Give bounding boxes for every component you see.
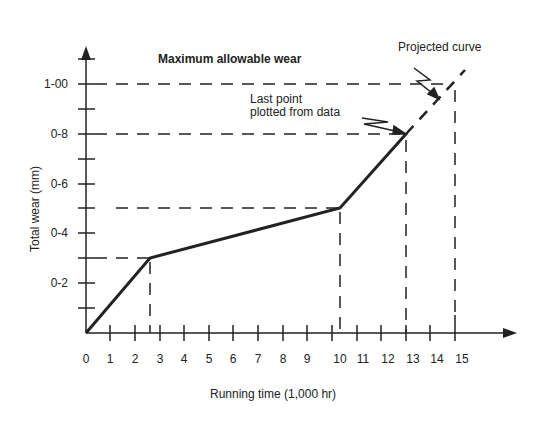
y-tick-label: 0-2 xyxy=(28,276,68,290)
x-tick-label: 9 xyxy=(297,352,317,366)
y-axis-title: Total wear (mm) xyxy=(28,166,42,252)
x-tick-label: 11 xyxy=(353,352,373,366)
x-tick-label: 5 xyxy=(199,352,219,366)
y-axis-arrow-icon xyxy=(81,46,91,60)
x-axis-title: Running time (1,000 hr) xyxy=(210,387,336,401)
x-tick-label: 13 xyxy=(403,352,423,366)
x-tick-label: 8 xyxy=(273,352,293,366)
last-point-label-line2: plotted from data xyxy=(250,105,340,119)
x-tick-label: 6 xyxy=(223,352,243,366)
x-tick-label: 0 xyxy=(76,352,96,366)
measured-wear-line xyxy=(86,134,406,333)
y-tick-label: 0-8 xyxy=(28,127,68,141)
y-tick-label: 1-00 xyxy=(28,77,68,91)
x-tick-label: 1 xyxy=(100,352,120,366)
projected-curve-label: Projected curve xyxy=(398,40,481,54)
x-ticks xyxy=(110,315,455,341)
x-tick-label: 12 xyxy=(378,352,398,366)
last-point-label-line1: Last point xyxy=(250,92,302,106)
x-tick-label: 4 xyxy=(174,352,194,366)
x-tick-label: 14 xyxy=(427,352,447,366)
x-tick-label: 15 xyxy=(452,352,472,366)
x-axis-arrow-icon xyxy=(503,328,517,338)
x-tick-label: 7 xyxy=(248,352,268,366)
reference-lines xyxy=(95,84,455,333)
x-tick-label: 3 xyxy=(150,352,170,366)
x-tick-label: 10 xyxy=(330,352,350,366)
last-point-arrow-icon xyxy=(362,118,406,134)
projected-curve-line xyxy=(406,70,465,134)
x-tick-label: 2 xyxy=(125,352,145,366)
max-wear-label: Maximum allowable wear xyxy=(158,52,301,66)
